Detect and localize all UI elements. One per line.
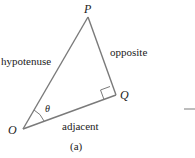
side-label-adjacent: adjacent [62, 120, 99, 132]
angle-label-theta: θ [45, 103, 50, 114]
vertex-label-p: P [83, 2, 92, 16]
side-label-opposite: opposite [110, 46, 147, 58]
side-hypotenuse [23, 17, 88, 129]
figure-caption: (a) [70, 140, 83, 153]
right-triangle-diagram: P Q O θ hypotenuse opposite adjacent (a) [0, 0, 195, 158]
angle-arc [34, 110, 44, 121]
vertex-label-q: Q [120, 88, 129, 102]
side-label-hypotenuse: hypotenuse [1, 55, 51, 67]
vertex-label-o: O [8, 123, 17, 137]
